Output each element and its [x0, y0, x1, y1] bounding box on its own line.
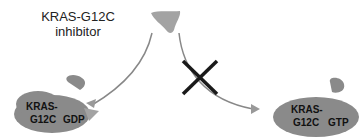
arrow-head-right	[251, 104, 260, 114]
right-protein-name-line1: KRAS-	[291, 104, 323, 116]
left-protein-nucleotide: GDP	[63, 114, 85, 126]
inhibitor-label-line1: KRAS-G12C	[22, 9, 134, 24]
inhibitor-label: KRAS-G12C inhibitor	[22, 9, 134, 39]
left-protein-name-line1: KRAS-	[26, 101, 58, 113]
right-protein-nucleotide: GTP	[328, 117, 349, 129]
blocked-cross-icon	[183, 61, 217, 94]
arrow-head-left	[86, 99, 96, 108]
arrow-to-gdp	[92, 33, 152, 105]
inhibitor-shape	[151, 11, 180, 33]
left-protein-name-line2: G12C	[30, 114, 56, 126]
arrow-to-gtp	[179, 33, 253, 109]
right-protein-name-line2: G12C	[293, 117, 319, 129]
inhibitor-label-line2: inhibitor	[22, 24, 134, 39]
